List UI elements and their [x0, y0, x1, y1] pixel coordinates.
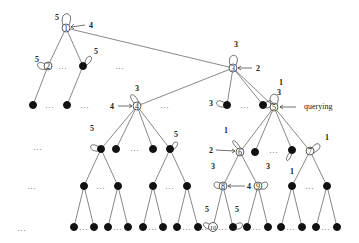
svg-text:...: ...	[270, 146, 279, 155]
svg-text:4: 4	[110, 102, 114, 111]
svg-text:4: 4	[89, 21, 93, 30]
svg-text:5: 5	[94, 47, 98, 56]
svg-text:5: 5	[35, 55, 39, 64]
node-8: 8	[219, 182, 227, 191]
svg-text:...: ...	[149, 223, 158, 232]
svg-text:...: ...	[241, 101, 250, 110]
svg-text:...: ...	[80, 223, 89, 232]
svg-text:...: ...	[116, 62, 125, 71]
svg-text:3: 3	[277, 88, 281, 97]
svg-text:5: 5	[205, 205, 209, 214]
ellipses: ... ... ... ... ... ... ... ... ... ... …	[18, 62, 331, 233]
svg-text:...: ...	[199, 223, 208, 232]
svg-text:...: ...	[97, 182, 106, 191]
svg-text:1: 1	[64, 24, 68, 33]
svg-text:3: 3	[234, 40, 238, 49]
tree-diagram: 1 2 3 4 5 6 7 8 9 10 5 4 5 5 3	[0, 0, 359, 243]
svg-text:5: 5	[174, 130, 178, 139]
node-3: 3	[229, 64, 237, 73]
svg-text:1: 1	[224, 126, 228, 135]
node-2: 2	[44, 62, 52, 71]
svg-text:...: ...	[219, 223, 228, 232]
svg-text:2: 2	[256, 64, 260, 73]
svg-text:8: 8	[221, 182, 225, 191]
svg-text:3: 3	[135, 84, 139, 93]
node-6: 6	[236, 148, 244, 157]
svg-text:...: ...	[34, 143, 43, 152]
weight-labels: 5 4 5 5 3 2 3 4 3 3 1 querying 5 5 1 2 1…	[35, 13, 332, 214]
svg-text:6: 6	[238, 148, 242, 157]
svg-text:4: 4	[247, 182, 251, 191]
edges	[33, 28, 337, 227]
svg-text:...: ...	[183, 223, 192, 232]
node-9: 9	[254, 182, 262, 191]
svg-text:...: ...	[306, 182, 315, 191]
svg-text:2: 2	[209, 146, 213, 155]
svg-text:...: ...	[131, 144, 140, 153]
svg-text:...: ...	[46, 101, 55, 110]
svg-text:1: 1	[325, 133, 329, 142]
svg-text:querying: querying	[304, 102, 332, 111]
svg-text:...: ...	[253, 223, 262, 232]
svg-text:3: 3	[211, 162, 215, 171]
svg-text:10: 10	[210, 224, 217, 231]
svg-text:...: ...	[18, 224, 27, 233]
node-7: 7	[306, 147, 314, 156]
svg-text:9: 9	[256, 182, 260, 191]
svg-text:...: ...	[161, 101, 170, 110]
svg-text:4: 4	[135, 102, 139, 111]
svg-text:3: 3	[231, 64, 235, 73]
svg-text:...: ...	[59, 62, 68, 71]
svg-text:2: 2	[46, 62, 50, 71]
filled-nodes	[30, 63, 341, 231]
svg-text:5: 5	[235, 205, 239, 214]
svg-text:3: 3	[266, 162, 270, 171]
node-5: 5	[270, 103, 278, 112]
svg-text:5: 5	[272, 103, 276, 112]
self-loops	[38, 14, 320, 229]
svg-text:...: ...	[166, 182, 175, 191]
svg-text:5: 5	[55, 13, 59, 22]
node-10: 10	[209, 223, 218, 232]
svg-text:5: 5	[90, 124, 94, 133]
svg-text:1: 1	[279, 78, 283, 87]
svg-text:3: 3	[209, 99, 213, 108]
svg-text:7: 7	[308, 147, 312, 156]
node-1: 1	[62, 24, 70, 33]
svg-text:...: ...	[81, 101, 90, 110]
svg-text:1: 1	[290, 167, 294, 176]
svg-text:...: ...	[287, 223, 296, 232]
svg-text:...: ...	[28, 182, 37, 191]
node-4: 4	[133, 102, 141, 111]
svg-text:...: ...	[322, 223, 331, 232]
svg-text:...: ...	[114, 223, 123, 232]
